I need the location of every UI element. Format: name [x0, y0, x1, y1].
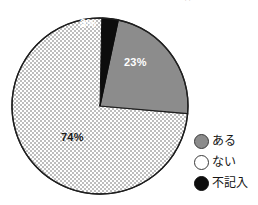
- legend-item-aru: ある: [194, 131, 258, 151]
- legend-label-nai: ない: [212, 155, 236, 169]
- black-circle-icon: [194, 176, 209, 191]
- chart-legend: ある ない 不記入: [194, 131, 258, 194]
- pie-chart-figure: ～～の有無（～～について）～結果 23% 74% 3%: [0, 0, 258, 205]
- legend-item-nai: ない: [194, 152, 258, 172]
- pie-svg: [0, 0, 195, 205]
- legend-item-mukinyu: 不記入: [194, 173, 258, 193]
- legend-label-mukinyu: 不記入: [212, 176, 248, 190]
- legend-label-aru: ある: [212, 134, 236, 148]
- dotted-circle-icon: [194, 155, 209, 170]
- gray-circle-icon: [194, 134, 209, 149]
- pie-plot-area: 23% 74% 3%: [0, 0, 195, 205]
